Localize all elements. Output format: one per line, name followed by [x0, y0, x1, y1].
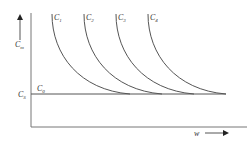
diagram-figure: Cm CS C0 C1 C2 C3 C4 w — [0, 0, 252, 144]
c0-label: C0 — [37, 84, 45, 94]
y-axis-label: Cm — [15, 40, 24, 50]
x-axis-label: w — [194, 129, 200, 138]
curve-c1 — [52, 14, 130, 94]
curve-c2 — [84, 14, 162, 94]
curve-c4 — [148, 14, 226, 94]
curve-c3 — [116, 14, 194, 94]
cs-label: CS — [18, 90, 26, 100]
c3-label: C3 — [118, 13, 126, 23]
c2-label: C2 — [86, 13, 94, 23]
c1-label: C1 — [54, 13, 62, 23]
c4-label: C4 — [150, 13, 158, 23]
